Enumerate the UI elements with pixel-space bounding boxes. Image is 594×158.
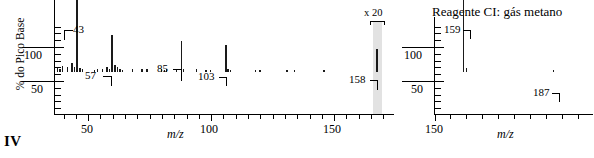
right-panel: Reagente CI: gás metano 100 50	[400, 0, 594, 158]
left-peak-label-85: 85	[157, 63, 168, 74]
left-peak-label-103: 103	[198, 71, 215, 82]
magnify-annotation-label: x 20	[364, 8, 382, 19]
left-peak-label-57: 57	[85, 70, 96, 81]
mass-spectrum-figure: % do Pico Base 100 5	[0, 0, 594, 158]
right-x-axis-title: m/z	[497, 128, 514, 140]
right-peak-label-187: 187	[533, 87, 550, 98]
left-x-axis-title: m/z	[167, 128, 184, 140]
right-x-tick-label-150: 150	[425, 123, 443, 135]
left-peaks	[0, 0, 400, 115]
left-peak-label-158: 158	[349, 74, 366, 85]
figure-roman-numeral: IV	[4, 133, 22, 150]
left-peak-label-43: 43	[73, 24, 84, 35]
left-x-tick-label-150: 150	[323, 123, 341, 135]
left-panel: 100 50	[0, 0, 400, 158]
right-peak-label-159: 159	[444, 24, 461, 35]
left-x-tick-label-100: 100	[200, 123, 218, 135]
magnify-annotation-bracket	[370, 21, 385, 26]
left-x-tick-label-50: 50	[81, 123, 93, 135]
right-peaks	[400, 0, 594, 115]
